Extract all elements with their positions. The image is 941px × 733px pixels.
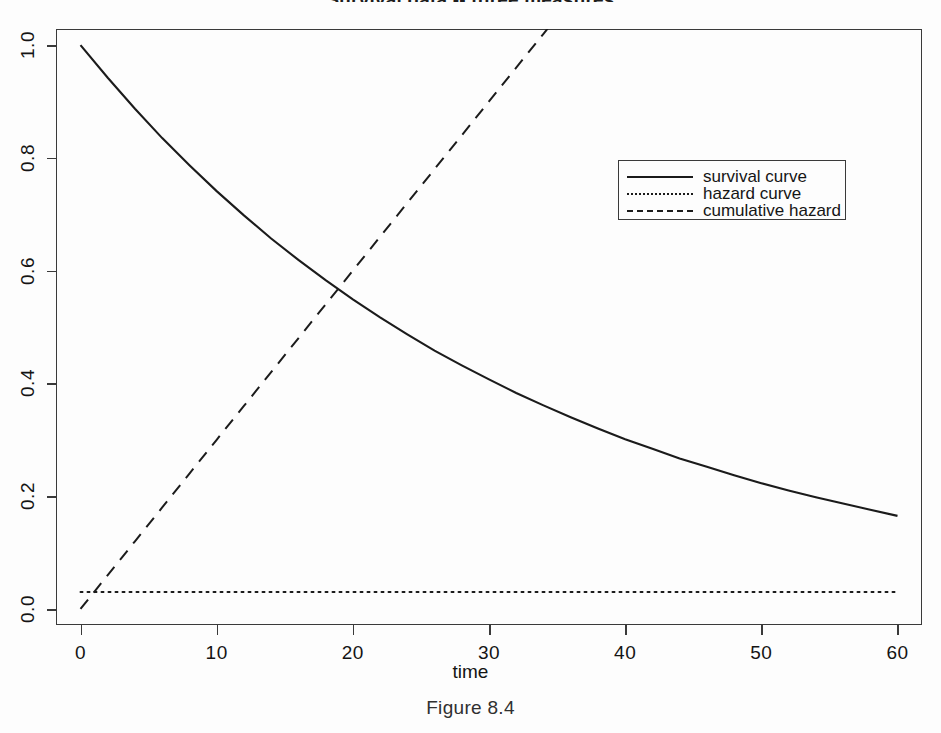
figure-root: Survival data -- three measures 0.00.20.… <box>0 0 941 733</box>
chart-title: Survival data -- three measures <box>0 0 941 2</box>
y-tick-label: 0.6 <box>17 257 39 285</box>
series-line <box>81 45 898 516</box>
legend: survival curvehazard curvecumulative haz… <box>618 160 846 220</box>
y-tick-label: 1.0 <box>17 31 39 59</box>
figure-caption: Figure 8.4 <box>0 697 941 719</box>
x-tick-mark <box>897 625 899 635</box>
y-tick-label: 0.0 <box>17 595 39 623</box>
series-line <box>81 29 898 609</box>
y-tick-mark <box>47 45 56 47</box>
y-tick-mark <box>47 158 56 160</box>
x-tick-mark <box>489 625 491 635</box>
x-axis-title: time <box>0 661 941 683</box>
x-tick-mark <box>761 625 763 635</box>
legend-key-solid-icon <box>627 176 693 178</box>
plot-canvas <box>56 29 922 625</box>
x-tick-mark <box>217 625 219 635</box>
y-tick-label: 0.4 <box>17 369 39 397</box>
y-tick-label: 0.2 <box>17 482 39 510</box>
y-tick-mark <box>47 271 56 273</box>
legend-label: cumulative hazard <box>703 201 841 221</box>
x-tick-mark <box>81 625 83 635</box>
x-tick-mark <box>625 625 627 635</box>
y-tick-mark <box>47 383 56 385</box>
y-tick-label: 0.8 <box>17 144 39 172</box>
legend-key-dotted-icon <box>627 193 693 195</box>
y-tick-mark <box>47 609 56 611</box>
x-tick-mark <box>353 625 355 635</box>
legend-key-dashed-icon <box>627 210 693 212</box>
legend-item: cumulative hazard <box>627 202 839 220</box>
y-tick-mark <box>47 496 56 498</box>
